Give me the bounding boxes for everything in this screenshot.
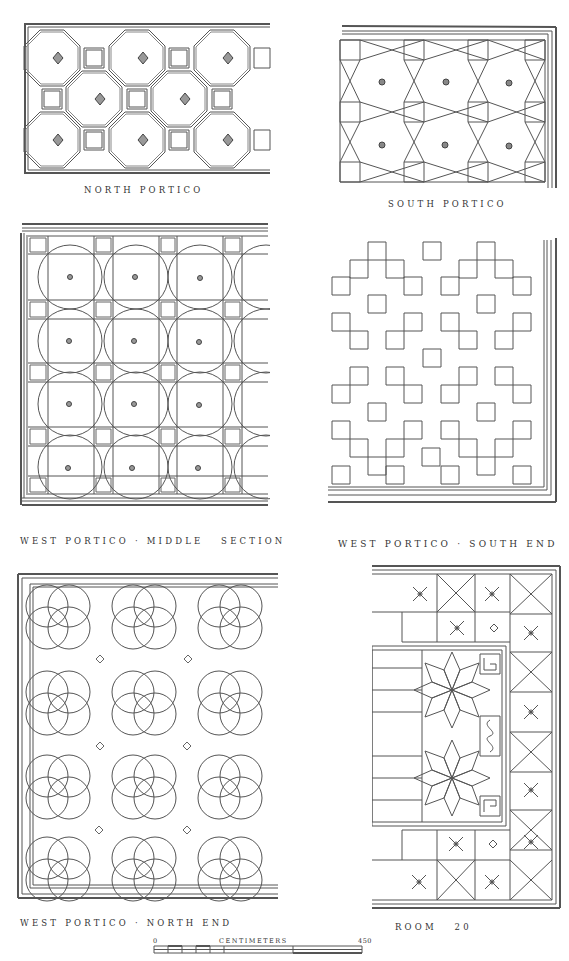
room-20-panel: [372, 560, 564, 912]
west-portico-north-panel: [16, 572, 278, 902]
scale-start-label: 0: [153, 937, 159, 945]
west-portico-south-drawing: [328, 236, 560, 506]
west-portico-middle-label: WEST PORTICO · MIDDLE SECTION: [20, 536, 286, 546]
west-portico-north-drawing: [16, 572, 278, 902]
south-portico-label: SOUTH PORTICO: [388, 199, 507, 209]
scale-bar-graphic: [153, 945, 383, 957]
west-portico-south-label: WEST PORTICO · SOUTH END: [338, 539, 558, 549]
west-portico-south-panel: [328, 236, 560, 506]
north-portico-drawing: [22, 20, 272, 178]
south-portico-panel: [328, 24, 560, 192]
room-20-drawing: [372, 560, 564, 912]
north-portico-label: NORTH PORTICO: [84, 185, 203, 195]
south-portico-drawing: [328, 24, 560, 192]
scale-end-label: 450: [358, 937, 372, 945]
scale-bar: 0 CENTIMETERS 450: [153, 937, 383, 957]
west-portico-north-label: WEST PORTICO · NORTH END: [20, 918, 232, 928]
scale-unit-label: CENTIMETERS: [219, 937, 288, 945]
west-portico-middle-drawing: [18, 222, 270, 512]
room-20-label: ROOM 20: [395, 922, 472, 932]
west-portico-middle-panel: [18, 222, 270, 512]
north-portico-panel: [22, 20, 272, 178]
